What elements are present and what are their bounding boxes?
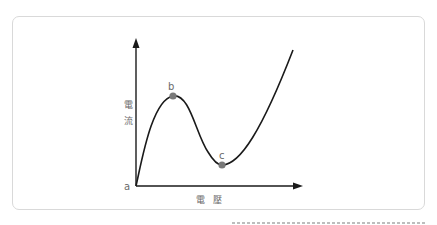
y-axis-arrow-icon <box>133 38 140 48</box>
y-axis-label-char-2: 流 <box>121 113 135 129</box>
x-axis-arrow-icon <box>293 183 303 190</box>
point-b-marker <box>169 92 176 99</box>
iv-curve <box>136 50 293 186</box>
origin-label: a <box>124 182 130 192</box>
y-axis-label-char-1: 電 <box>121 97 135 113</box>
point-c-label: c <box>219 151 225 161</box>
x-axis-label: 電壓 <box>196 193 230 206</box>
y-axis-label: 電 流 <box>121 97 135 129</box>
point-b-label: b <box>168 82 174 92</box>
figure-caption-cropped <box>232 219 427 225</box>
point-c-marker <box>218 161 225 168</box>
iv-curve-diagram <box>0 0 437 225</box>
